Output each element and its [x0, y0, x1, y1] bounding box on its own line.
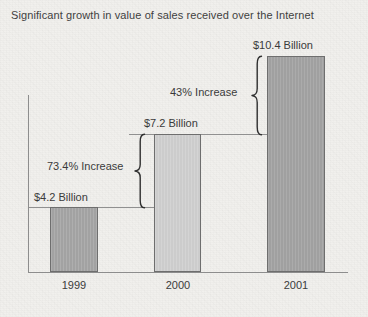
bar-chart: Significant growth in value of sales rec…	[0, 0, 368, 317]
chart-title: Significant growth in value of sales rec…	[11, 8, 351, 22]
x-tick-label-2000: 2000	[148, 278, 208, 292]
increase-annotation-2000-2001: 43% Increase	[170, 86, 237, 99]
increase-annotation-1999-2000: 73.4% Increase	[47, 160, 123, 173]
bar-2000	[154, 134, 201, 272]
x-tick-label-2001: 2001	[266, 278, 326, 292]
y-axis-line	[28, 95, 29, 273]
x-tick-label-1999: 1999	[44, 278, 104, 292]
value-label-1999: $4.2 Billion	[34, 191, 88, 204]
value-label-2001: $10.4 Billion	[253, 39, 313, 52]
x-axis-line	[28, 272, 348, 273]
curly-brace-icon-2000-2001	[248, 55, 264, 136]
value-label-2000: $7.2 Billion	[144, 117, 198, 130]
bar-1999	[50, 207, 98, 272]
bar-2001	[267, 56, 325, 272]
curly-brace-icon-1999-2000	[131, 133, 147, 209]
